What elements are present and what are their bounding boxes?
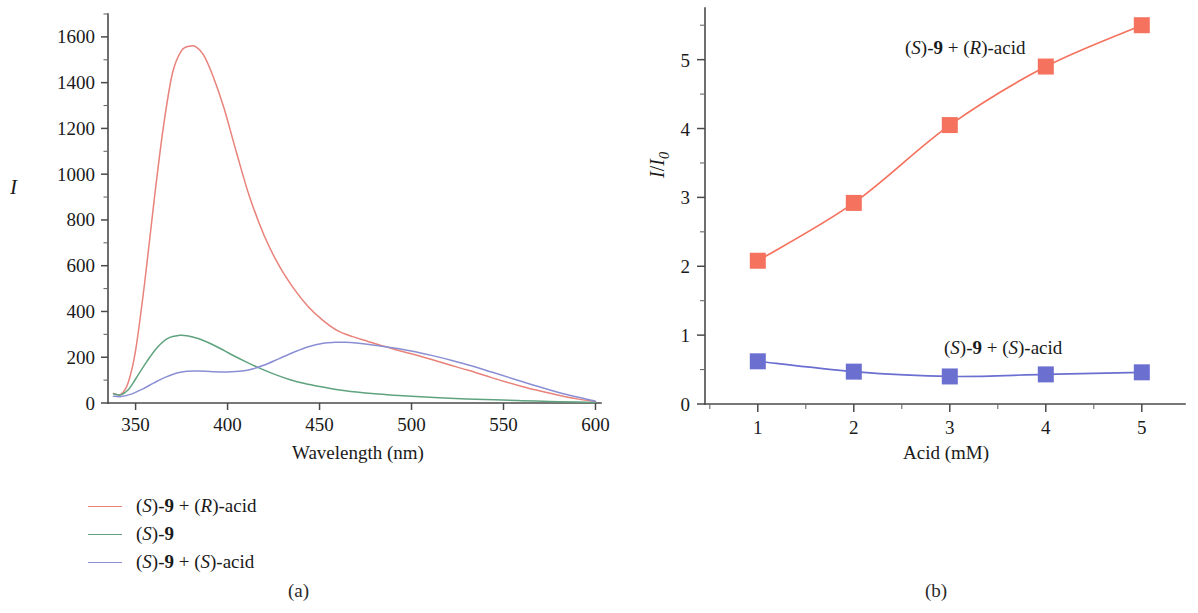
panel-b-x-tick-label: 3	[945, 417, 955, 438]
legend-item-label: (S)-9	[136, 523, 174, 545]
legend-item: (S)-9 + (S)-acid	[88, 550, 408, 574]
legend-swatch-line-icon	[88, 506, 122, 507]
panel-b-x-tick-label: 1	[753, 417, 763, 438]
panel-b-series-line	[758, 25, 1142, 261]
panel-b-data-marker	[942, 117, 958, 133]
legend-item-label: (S)-9 + (S)-acid	[136, 551, 254, 573]
panel-b-caption: (b)	[925, 580, 947, 602]
panel-b-y-tick-label: 4	[681, 119, 691, 140]
panel-b-data-marker	[750, 253, 766, 269]
panel-b-data-marker	[942, 368, 958, 384]
legend-item-label: (S)-9 + (R)-acid	[136, 495, 256, 517]
panel-b-y-tick-label: 1	[681, 325, 691, 346]
panel-b-plot: 01234512345	[0, 0, 1198, 470]
panel-b-y-tick-label: 0	[681, 394, 691, 415]
legend-swatch-line-icon	[88, 534, 122, 535]
panel-b-data-marker	[846, 364, 862, 380]
panel-b-x-tick-label: 5	[1137, 417, 1147, 438]
panel-b-annotation-s-acid: (S)-9 + (S)-acid	[944, 338, 1062, 357]
panel-b-data-marker	[1038, 366, 1054, 382]
panel-b-y-tick-label: 5	[681, 50, 691, 71]
panel-b-data-marker	[1038, 59, 1054, 75]
panel-b-y-tick-label: 2	[681, 256, 691, 277]
panel-b-data-marker	[1134, 17, 1150, 33]
panel-b-x-axis-label: Acid (mM)	[903, 443, 989, 462]
figure-root: 0200400600800100012001400160035040045050…	[0, 0, 1198, 613]
panel-b-y-tick-label: 3	[681, 187, 691, 208]
legend-item: (S)-9 + (R)-acid	[88, 494, 408, 518]
panel-b-annotation-r-acid: (S)-9 + (R)-acid	[905, 38, 1025, 57]
panel-b-data-marker	[1134, 364, 1150, 380]
panel-b-x-tick-label: 4	[1041, 417, 1051, 438]
legend-swatch-line-icon	[88, 562, 122, 563]
panel-b: 01234512345	[620, 0, 1198, 613]
panel-a-legend: (S)-9 + (R)-acid (S)-9 (S)-9 + (S)-acid	[88, 494, 408, 578]
panel-b-data-marker	[846, 195, 862, 211]
panel-a-caption: (a)	[288, 580, 309, 602]
panel-b-x-tick-label: 2	[849, 417, 859, 438]
panel-b-y-axis-label: I/I0	[646, 152, 673, 178]
legend-item: (S)-9	[88, 522, 408, 546]
panel-b-data-marker	[750, 353, 766, 369]
